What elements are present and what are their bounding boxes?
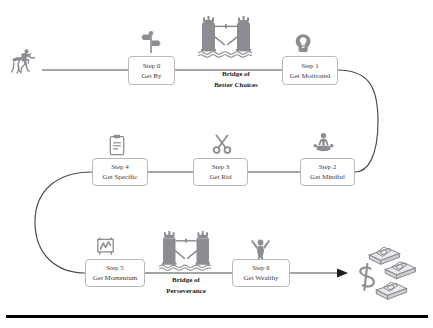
step-box-4-label: Get Specific — [103, 172, 138, 182]
connector-step4-to-step5 — [35, 172, 92, 273]
step-box-2-number: Step 2 — [319, 162, 337, 172]
connector-step1-to-step2 — [337, 70, 378, 172]
step-box-6-number: Step 6 — [252, 263, 270, 273]
scissors-icon — [212, 134, 232, 154]
bridge-label-better-choices-line1: Bridge of — [186, 69, 286, 80]
step-box-2-label: Get Mindful — [310, 172, 345, 182]
meditation-icon — [313, 132, 334, 153]
bridge-label-better-choices: Bridge of Better Choices — [186, 69, 286, 91]
step-box-3[interactable]: Step 3 Get Rid — [193, 158, 248, 186]
signpost-icon — [141, 31, 161, 53]
step-box-4-number: Step 4 — [111, 162, 129, 172]
step-box-6-label: Get Wealthy — [244, 273, 279, 283]
bridge-label-better-choices-line2: Better Choices — [186, 80, 286, 91]
head-lightbulb-icon — [294, 33, 313, 53]
step-box-1-number: Step 1 — [301, 61, 319, 71]
bridge-label-perseverance: Bridge of Perseverance — [136, 275, 236, 297]
bottom-divider — [6, 315, 428, 318]
diagram-canvas: Step 0 Get By Step 1 Get Motivated Step … — [0, 0, 433, 328]
step-box-6[interactable]: Step 6 Get Wealthy — [232, 259, 290, 287]
step-box-3-number: Step 3 — [212, 162, 230, 172]
clipboard-icon — [109, 134, 125, 156]
step-box-3-label: Get Rid — [210, 172, 232, 182]
money-stacks-icon — [352, 243, 422, 311]
step-box-2[interactable]: Step 2 Get Mindful — [300, 158, 355, 186]
step-box-0[interactable]: Step 0 Get By — [128, 56, 175, 85]
step-box-5-label: Get Momentum — [93, 273, 138, 283]
step-box-0-number: Step 0 — [143, 61, 161, 71]
step-box-1-label: Get Motivated — [290, 71, 331, 81]
step-box-4[interactable]: Step 4 Get Specific — [92, 158, 148, 186]
step-box-5[interactable]: Step 5 Get Momentum — [85, 259, 145, 287]
tower-bridge-icon — [196, 14, 256, 60]
horse-rider-icon — [8, 46, 40, 76]
step-box-1[interactable]: Step 1 Get Motivated — [282, 56, 338, 85]
bridge-label-perseverance-line1: Bridge of — [136, 275, 236, 286]
step-box-5-number: Step 5 — [106, 263, 124, 273]
bridge-label-perseverance-line2: Perseverance — [136, 286, 236, 297]
bar-chart-icon — [96, 237, 115, 256]
arrow-head-finish — [337, 269, 348, 278]
tower-bridge-icon — [157, 229, 215, 273]
step-box-0-label: Get By — [141, 71, 161, 81]
